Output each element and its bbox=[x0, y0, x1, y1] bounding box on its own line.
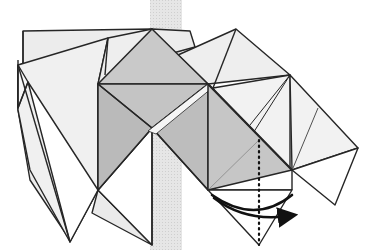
origami-diagram: Folding diagram showing a partially fold… bbox=[0, 0, 373, 250]
diagram-canvas bbox=[0, 0, 373, 250]
